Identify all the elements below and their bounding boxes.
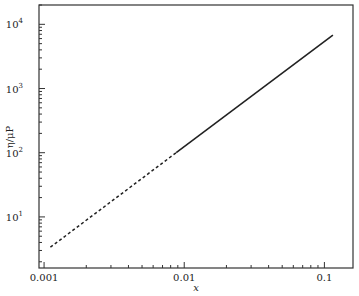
x-axis-label: x	[193, 282, 199, 293]
y-tick-label: 104	[6, 17, 24, 30]
series	[50, 35, 333, 247]
ticks	[39, 5, 324, 268]
series-line-extrapolated	[50, 153, 176, 248]
series-line-measured	[176, 35, 333, 153]
chart: 0.0010.010.1101102103104 x η/μP	[0, 0, 359, 296]
plot-frame	[39, 5, 353, 268]
y-tick-label: 103	[6, 82, 23, 95]
y-axis-label: η/μP	[4, 125, 15, 148]
y-tick-label: 101	[6, 210, 23, 223]
x-tick-label: 0.1	[316, 272, 332, 283]
x-tick-label: 0.001	[30, 272, 59, 283]
x-tick-label: 0.01	[173, 272, 195, 283]
